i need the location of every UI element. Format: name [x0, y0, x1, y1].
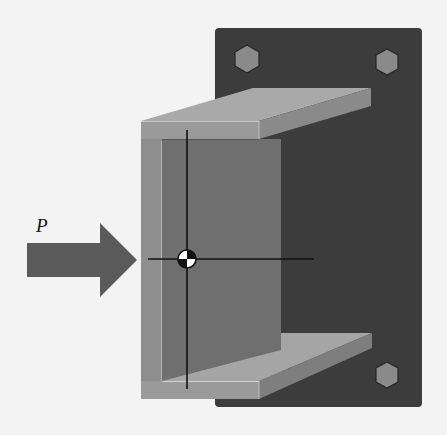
channel-web-front-edge — [141, 121, 162, 399]
bottom-flange-front-face — [141, 381, 259, 399]
top-flange-front-face — [141, 121, 259, 139]
channel-bracket-diagram: P — [0, 0, 447, 435]
centroid-icon — [178, 250, 196, 268]
bolt-bottom-right-icon — [376, 362, 398, 388]
diagram-stage: P — [0, 0, 447, 435]
load-label: P — [35, 215, 48, 236]
bolt-top-right-icon — [376, 49, 398, 75]
